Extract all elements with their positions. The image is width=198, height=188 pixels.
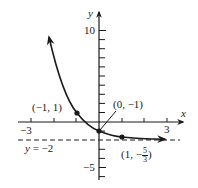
x-axis-label: x [181, 108, 186, 119]
y-tick-label-neg5: −5 [83, 162, 95, 173]
point-a-label: (−1, 1) [32, 102, 62, 113]
point-c-prefix: (1, − [121, 148, 142, 160]
y-axis-label: y [88, 8, 93, 19]
point-0-neg1 [96, 128, 101, 133]
y-ticks [99, 31, 106, 177]
x-tick-label-3: 3 [164, 124, 170, 135]
point-b-label: (0, −1) [113, 99, 143, 110]
point-c-label: (1, −53) [121, 147, 152, 164]
point-neg1-1 [74, 110, 79, 115]
graph-canvas [0, 0, 198, 188]
asymptote-label-rest: = −2 [30, 142, 53, 154]
point-c-suffix: ) [148, 148, 152, 160]
point-b-leader [100, 111, 116, 130]
asymptote-label: y = −2 [25, 143, 53, 154]
y-tick-label-10: 10 [84, 25, 95, 36]
function-curve [49, 37, 165, 139]
point-1-neg5-3 [119, 134, 124, 139]
x-tick-label-neg3: −3 [20, 125, 32, 136]
